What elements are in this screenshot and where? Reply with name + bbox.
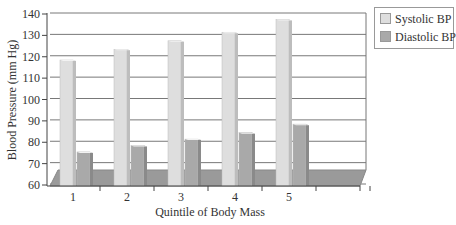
x-tick-label: 4: [232, 190, 238, 204]
bar-systolic: [168, 41, 181, 186]
bar-side: [252, 133, 255, 186]
bar-side: [235, 32, 238, 186]
y-tick-label: 60: [28, 178, 40, 192]
gridlines: [50, 13, 366, 184]
floor-slab: [50, 170, 366, 186]
bar-side: [73, 60, 76, 186]
legend-swatch-diastolic: [380, 31, 391, 42]
bar-side: [289, 19, 292, 186]
x-tick-label: 2: [124, 190, 130, 204]
y-tick-label: 140: [22, 7, 40, 21]
legend-swatch-systolic: [380, 13, 391, 24]
legend-label: Systolic BP: [395, 12, 451, 26]
legend-item-systolic: Systolic BP: [380, 12, 451, 26]
bar-diastolic: [131, 146, 144, 186]
bar-systolic: [276, 19, 289, 186]
x-tick-label: 1: [70, 190, 76, 204]
y-tick-label: 110: [22, 71, 40, 85]
bar-side: [90, 152, 93, 186]
y-tick-label: 70: [28, 157, 40, 171]
bar-side: [306, 124, 309, 186]
bar-diastolic: [185, 139, 198, 186]
bar-diastolic: [293, 124, 306, 186]
bar-systolic: [222, 32, 235, 186]
y-tick-label: 90: [28, 114, 40, 128]
bar-diastolic: [239, 133, 252, 186]
bar-side: [198, 139, 201, 186]
bar-systolic: [114, 49, 127, 186]
y-tick-label: 80: [28, 135, 40, 149]
bar-side: [181, 41, 184, 186]
bar-systolic: [60, 60, 73, 186]
bars: [60, 19, 309, 186]
bar-diastolic: [77, 152, 90, 186]
legend-label: Diastolic BP: [395, 30, 456, 44]
x-axis-label: Quintile of Body Mass: [155, 205, 265, 219]
x-tick-label: 5: [286, 190, 292, 204]
legend-item-diastolic: Diastolic BP: [380, 30, 456, 44]
y-axis-label: Blood Pressure (mm Hg): [5, 40, 19, 160]
y-tick-label: 130: [22, 28, 40, 42]
y-tick-label: 120: [22, 50, 40, 64]
y-tick-label: 100: [22, 93, 40, 107]
x-tick-label: 3: [178, 190, 184, 204]
chart-floor: [50, 170, 366, 186]
bar-side: [127, 49, 130, 186]
bar-side: [144, 146, 147, 186]
legend: Systolic BP Diastolic BP: [374, 7, 454, 49]
